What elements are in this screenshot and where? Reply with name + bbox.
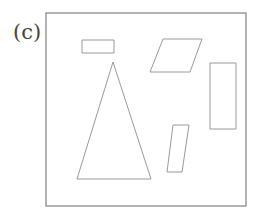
tall-rectangle <box>210 63 236 129</box>
small-horizontal-rectangle <box>82 40 114 53</box>
diagram-canvas <box>0 0 261 214</box>
tall-triangle <box>77 62 151 179</box>
shapes-group <box>77 39 236 179</box>
slanted-parallelogram <box>167 125 189 172</box>
wide-parallelogram <box>150 39 202 72</box>
outer-frame <box>46 13 246 206</box>
